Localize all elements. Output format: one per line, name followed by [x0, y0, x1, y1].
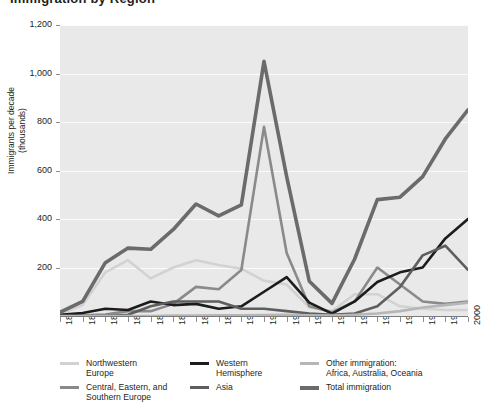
- x-axis-tick: [241, 317, 242, 322]
- legend-item-central-eastern-southern-europe[interactable]: Central, Eastern, and Southern Europe: [60, 382, 167, 402]
- y-axis-tick-label: 1,200: [0, 19, 52, 29]
- legend-label-central-eastern-southern-europe: Central, Eastern, and Southern Europe: [86, 382, 167, 402]
- x-axis-tick: [287, 317, 288, 322]
- x-axis-tick: [173, 317, 174, 322]
- legend-item-northwestern-europe[interactable]: Northwestern Europe: [60, 358, 137, 378]
- x-axis-tick: [355, 317, 356, 322]
- x-axis-tick: [105, 317, 106, 322]
- series-line: [60, 219, 468, 315]
- series-lines: [60, 25, 468, 316]
- legend-swatch-central-eastern-southern-europe: [60, 386, 79, 389]
- legend-label-northwestern-europe: Northwestern Europe: [86, 358, 137, 378]
- legend-item-total-immigration[interactable]: Total immigration: [300, 382, 391, 392]
- legend-item-other-immigration[interactable]: Other immigration: Africa, Australia, Oc…: [300, 358, 423, 378]
- legend-label-asia: Asia: [216, 382, 233, 392]
- legend-label-other-immigration: Other immigration: Africa, Australia, Oc…: [326, 358, 423, 378]
- legend-item-western-hemisphere[interactable]: Western Hemisphere: [190, 358, 262, 378]
- x-axis-tick: [309, 317, 310, 322]
- y-axis-tick-label: 1,000: [0, 68, 52, 78]
- x-axis-tick: [445, 317, 446, 322]
- y-axis-tick-label: 800: [0, 116, 52, 126]
- x-axis-tick: [219, 317, 220, 322]
- x-axis-tick: [60, 317, 61, 322]
- series-line: [60, 61, 468, 312]
- x-axis-tick: [400, 317, 401, 322]
- legend-swatch-other-immigration: [300, 362, 319, 365]
- x-axis-tick: [128, 317, 129, 322]
- legend-swatch-total-immigration: [300, 386, 319, 390]
- plot-area: [60, 25, 468, 316]
- x-axis-tick: [151, 317, 152, 322]
- x-axis-tick: [83, 317, 84, 322]
- y-axis-tick-label: 400: [0, 213, 52, 223]
- x-axis-tick: [468, 317, 469, 322]
- y-axis-tick-label: 600: [0, 165, 52, 175]
- chart-title: Immigration by Region: [10, 0, 155, 6]
- x-axis-tick: [332, 317, 333, 322]
- y-axis-tick-label: 200: [0, 262, 52, 272]
- legend-label-western-hemisphere: Western Hemisphere: [216, 358, 262, 378]
- legend-swatch-asia: [190, 386, 209, 389]
- legend-label-total-immigration: Total immigration: [326, 382, 391, 392]
- x-axis-tick: [264, 317, 265, 322]
- x-axis-tick: [377, 317, 378, 322]
- legend-swatch-western-hemisphere: [190, 362, 209, 365]
- chart-legend: Northwestern EuropeCentral, Eastern, and…: [0, 358, 479, 416]
- legend-swatch-northwestern-europe: [60, 362, 79, 365]
- series-line: [60, 127, 468, 316]
- legend-item-asia[interactable]: Asia: [190, 382, 233, 392]
- x-axis-tick-label: 2000: [472, 305, 482, 325]
- x-axis-tick: [423, 317, 424, 322]
- series-line: [60, 260, 468, 314]
- x-axis-tick: [196, 317, 197, 322]
